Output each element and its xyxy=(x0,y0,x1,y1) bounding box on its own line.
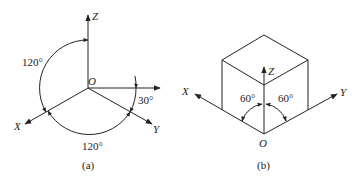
angle-label-right: 60° xyxy=(278,92,293,104)
origin-label-a: O xyxy=(88,75,96,87)
arc-30-top xyxy=(135,76,136,88)
angle-label-xz: 120° xyxy=(22,56,43,68)
y-axis-b xyxy=(264,94,337,134)
y-label-a: Y xyxy=(153,123,161,135)
origin-label-b: O xyxy=(259,137,267,149)
caption-b: (b) xyxy=(257,159,270,172)
arc-right-60 xyxy=(266,104,286,121)
figure-b: Z X Y O 60° 60° (b) xyxy=(181,35,348,172)
z-label-b: Z xyxy=(268,65,275,77)
angle-label-30: 30° xyxy=(138,94,153,106)
angle-label-left: 60° xyxy=(240,92,255,104)
y-label-b: Y xyxy=(340,86,348,98)
cube-top-face xyxy=(222,35,308,85)
caption-a: (a) xyxy=(82,159,95,172)
angle-label-xy: 120° xyxy=(82,140,103,152)
x-label-a: X xyxy=(13,120,22,132)
x-label-b: X xyxy=(181,85,190,97)
diagram-svg: Z X Y O 120° 30° 120° (a) Z X Y O 60° 60… xyxy=(0,0,352,184)
arc-xz-120 xyxy=(40,40,88,112)
x-axis-a xyxy=(25,88,88,124)
z-label-a: Z xyxy=(92,10,99,22)
arc-xy-120 xyxy=(48,111,130,135)
arc-left-60 xyxy=(242,104,262,121)
figure-a: Z X Y O 120° 30° 120° (a) xyxy=(13,10,161,172)
arc-30 xyxy=(130,88,136,112)
isometric-axes-figure: Z X Y O 120° 30° 120° (a) Z X Y O 60° 60… xyxy=(0,0,352,184)
